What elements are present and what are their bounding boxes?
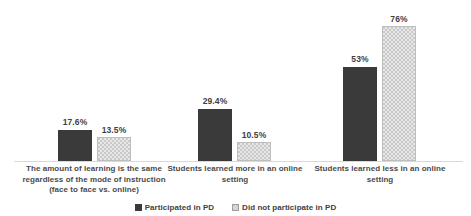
- value-label-not-participated-2: 10.5%: [242, 130, 267, 140]
- bar-not-participated-2[interactable]: 10.5%: [237, 142, 271, 161]
- value-label-participated-2: 29.4%: [203, 96, 228, 106]
- bar-group-3: 53% 76%: [343, 0, 415, 161]
- category-label-2-line-1: Students learned more in an online: [155, 164, 315, 175]
- bar-participated-2[interactable]: 29.4%: [198, 109, 232, 161]
- bar-not-participated-3[interactable]: 76%: [382, 26, 416, 161]
- category-label-2: Students learned more in an online setti…: [155, 164, 315, 185]
- legend-entry-not-participated[interactable]: Did not participate in PD: [232, 203, 336, 212]
- value-label-participated-3: 53%: [351, 54, 368, 64]
- legend-entry-participated[interactable]: Participated in PD: [135, 203, 214, 212]
- chart-legend: Participated in PD Did not participate i…: [0, 200, 471, 214]
- x-axis-line: [14, 161, 463, 162]
- bar-group-1: 17.6% 13.5%: [58, 0, 130, 161]
- plot-area: 17.6% 13.5% 29.4% 10.5%: [0, 0, 471, 162]
- category-label-1-line-1: The amount of learning is the same: [14, 164, 174, 175]
- category-axis-labels: The amount of learning is the same regar…: [0, 164, 471, 200]
- category-label-1-line-3: (face to face vs. online): [14, 185, 174, 196]
- bar-group-2: 29.4% 10.5%: [198, 0, 270, 161]
- category-label-1-line-2: regardless of the mode of instruction: [14, 175, 174, 186]
- bar-participated-3[interactable]: 53%: [343, 67, 377, 161]
- bar-not-participated-1[interactable]: 13.5%: [97, 137, 131, 161]
- category-label-2-line-2: setting: [155, 175, 315, 186]
- value-label-not-participated-1: 13.5%: [102, 125, 127, 135]
- category-label-1: The amount of learning is the same regar…: [14, 164, 174, 196]
- category-label-3: Students learned less in an online setti…: [300, 164, 460, 185]
- legend-swatch-icon-not-participated: [232, 204, 239, 211]
- bar-participated-1[interactable]: 17.6%: [58, 130, 92, 161]
- value-label-not-participated-3: 76%: [390, 14, 407, 24]
- category-label-3-line-1: Students learned less in an online: [300, 164, 460, 175]
- legend-label-participated: Participated in PD: [145, 203, 214, 212]
- value-label-participated-1: 17.6%: [63, 117, 88, 127]
- category-label-3-line-2: setting: [300, 175, 460, 186]
- bar-chart: 17.6% 13.5% 29.4% 10.5%: [0, 0, 471, 216]
- legend-swatch-icon-participated: [135, 204, 142, 211]
- legend-label-not-participated: Did not participate in PD: [242, 203, 336, 212]
